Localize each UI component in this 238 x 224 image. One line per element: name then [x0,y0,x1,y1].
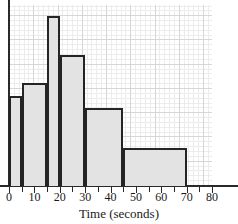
x-axis-tick-label: 0 [0,191,21,204]
histogram-bar [60,55,85,186]
histogram-bar [22,83,47,186]
histogram-chart: 01020304050607080 Time (seconds) [0,0,238,224]
x-axis-title: Time (seconds) [0,206,238,222]
x-axis-tick-label: 40 [99,191,123,204]
x-axis-tick-label: 60 [149,191,173,204]
x-axis-tick-label: 50 [124,191,148,204]
x-axis-tick-label: 30 [73,191,97,204]
x-axis-tick-label: 20 [48,191,72,204]
x-axis-tick-label: 80 [200,191,224,204]
histogram-bar [123,148,186,186]
histogram-bar [9,96,22,186]
histogram-bar [85,108,123,186]
histogram-bar [47,16,60,186]
x-axis-tick-label: 10 [22,191,46,204]
x-axis-tick-label: 70 [175,191,199,204]
